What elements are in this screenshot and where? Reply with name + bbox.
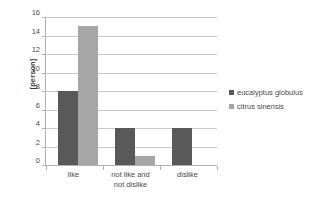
y-tick-label: 0 (18, 157, 40, 165)
y-tick-label: 10 (18, 65, 40, 73)
legend-item[interactable]: citrus sinensis (229, 99, 329, 113)
y-tick-label: 12 (18, 46, 40, 54)
legend-swatch-icon (229, 104, 234, 109)
x-tickmark (217, 166, 218, 170)
chart-legend: eucalyptus globuluscitrus sinensis (229, 85, 329, 113)
plot-area (45, 17, 217, 166)
legend-label: citrus sinensis (237, 102, 284, 111)
legend-label: eucalyptus globulus (237, 88, 303, 97)
bar (58, 91, 78, 165)
y-tick-label: 4 (18, 120, 40, 128)
y-tick-label: 14 (18, 28, 40, 36)
x-tick-label: like (45, 170, 102, 180)
y-tick-label: 16 (18, 9, 40, 17)
bar-group (103, 17, 160, 165)
bars-layer (46, 17, 217, 165)
x-tick-label: dislike (159, 170, 216, 180)
y-tick-label: 2 (18, 139, 40, 147)
y-tick-label: 6 (18, 102, 40, 110)
bar-group (46, 17, 103, 165)
bar (115, 128, 135, 165)
legend-swatch-icon (229, 90, 234, 95)
x-axis-tick-labels: likenot like and not dislikedislike (45, 170, 216, 204)
bar-chart-figure: [person] 0246810121416 likenot like and … (0, 0, 332, 208)
x-tick-label: not like and not dislike (102, 170, 159, 190)
bar-group (160, 17, 217, 165)
bar (172, 128, 192, 165)
y-axis-tick-labels: 0246810121416 (18, 13, 40, 165)
legend-item[interactable]: eucalyptus globulus (229, 85, 329, 99)
bar (78, 26, 98, 165)
y-tick-label: 8 (18, 83, 40, 91)
bar (135, 156, 155, 165)
